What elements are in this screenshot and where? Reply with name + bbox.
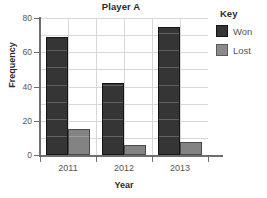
x-tick-label-2011: 2011 <box>38 163 98 173</box>
bar-2011-lost <box>68 129 90 155</box>
x-tick-mark <box>152 157 153 162</box>
x-tick-label-2012: 2012 <box>94 163 154 173</box>
bar-2013-lost <box>180 142 202 155</box>
x-axis-title: Year <box>40 180 208 190</box>
bar-inner-gridline <box>47 136 67 137</box>
y-axis-line <box>39 17 41 156</box>
legend-swatch-lost-icon <box>216 44 228 56</box>
bar-2012-lost <box>124 145 146 155</box>
x-tick-mark <box>208 157 209 162</box>
y-tick-mark <box>34 121 39 122</box>
legend-rows: WonLost <box>216 25 267 56</box>
x-tick-label-2013: 2013 <box>150 163 210 173</box>
bar-inner-gridline <box>159 136 179 137</box>
bar-inner-gridline <box>159 33 179 34</box>
bar-inner-gridline <box>103 136 123 137</box>
legend-swatch-won-icon <box>216 25 228 37</box>
bar-inner-gridline <box>103 119 123 120</box>
x-axis-line <box>39 155 223 157</box>
legend: Key WonLost <box>216 8 267 63</box>
y-tick-label: 0 <box>6 150 32 160</box>
y-tick-mark <box>34 87 39 88</box>
bar-2011-won <box>46 37 68 155</box>
bar-inner-gridline <box>103 85 123 86</box>
chart-title: Player A <box>36 1 206 12</box>
bars-layer <box>40 18 208 155</box>
y-tick-label: 20 <box>6 116 32 126</box>
x-tick-mark <box>40 157 41 162</box>
bar-inner-gridline <box>47 119 67 120</box>
legend-title: Key <box>220 8 267 19</box>
x-tick-mark <box>96 157 97 162</box>
legend-item-won[interactable]: Won <box>216 25 267 37</box>
bar-inner-gridline <box>159 67 179 68</box>
legend-label: Won <box>233 26 252 37</box>
bar-inner-gridline <box>47 102 67 103</box>
bar-inner-gridline <box>47 85 67 86</box>
bar-inner-gridline <box>103 102 123 103</box>
y-tick-mark <box>34 155 39 156</box>
bar-inner-gridline <box>159 50 179 51</box>
legend-label: Lost <box>233 45 251 56</box>
bar-inner-gridline <box>47 50 67 51</box>
bar-inner-gridline <box>159 102 179 103</box>
bar-inner-gridline <box>159 85 179 86</box>
bar-inner-gridline <box>69 136 89 137</box>
legend-item-lost[interactable]: Lost <box>216 44 267 56</box>
bar-2013-won <box>158 27 180 155</box>
y-tick-mark <box>34 18 39 19</box>
bar-inner-gridline <box>159 119 179 120</box>
y-tick-label: 80 <box>6 13 32 23</box>
bar-2012-won <box>102 83 124 155</box>
y-tick-mark <box>34 52 39 53</box>
bar-inner-gridline <box>47 67 67 68</box>
bar-chart-figure: Player A 020406080 201120122013 Year Fre… <box>0 0 267 198</box>
y-axis-title: Frequency <box>7 25 17 105</box>
